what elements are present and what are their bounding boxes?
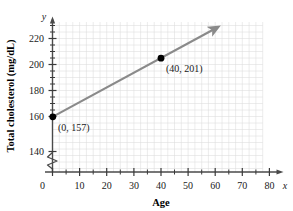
data-point-label-0-157: (0, 157) bbox=[58, 122, 90, 134]
y-tick-label-220: 220 bbox=[29, 33, 44, 44]
y-tick-label-160: 160 bbox=[29, 111, 44, 122]
y-axis-variable-label: y bbox=[41, 11, 47, 22]
x-tick-label-40: 40 bbox=[156, 180, 166, 191]
x-axis-variable-label: x bbox=[282, 180, 288, 191]
y-tick-label-140: 140 bbox=[29, 146, 44, 157]
x-tick-label-50: 50 bbox=[183, 180, 193, 191]
x-tick-label-70: 70 bbox=[237, 180, 247, 191]
x-tick-label-10: 10 bbox=[75, 180, 85, 191]
x-axis-title: Age bbox=[152, 197, 170, 208]
data-point-0-157 bbox=[49, 113, 56, 120]
x-tick-label-20: 20 bbox=[102, 180, 112, 191]
x-tick-label-30: 30 bbox=[129, 180, 139, 191]
x-tick-label-0: 0 bbox=[40, 180, 45, 191]
y-tick-label-200: 200 bbox=[29, 59, 44, 70]
x-tick-label-80: 80 bbox=[264, 180, 274, 191]
cholesterol-vs-age-chart: 220 200 180 160 140 0 10 20 30 40 50 60 … bbox=[0, 0, 293, 211]
y-tick-label-180: 180 bbox=[29, 85, 44, 96]
data-point-label-40-201: (40, 201) bbox=[166, 63, 203, 75]
x-tick-label-60: 60 bbox=[210, 180, 220, 191]
y-axis-title: Total cholesterol (mg/dL) bbox=[5, 39, 17, 153]
data-point-40-201 bbox=[158, 55, 165, 62]
